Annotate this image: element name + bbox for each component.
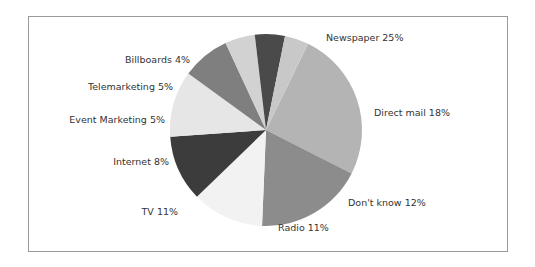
slice-label: TV 11% [142,207,178,217]
slice-label: Direct mail 18% [374,108,450,118]
slice-label: Internet 8% [113,157,169,167]
slice-label: Newspaper 25% [326,33,403,43]
pie-chart [0,0,535,267]
slice-label: Telemarketing 5% [88,82,173,92]
slice-label: Don't know 12% [348,198,426,208]
slice-label: Billboards 4% [125,55,190,65]
slice-label: Event Marketing 5% [69,115,165,125]
slice-label: Radio 11% [278,223,329,233]
